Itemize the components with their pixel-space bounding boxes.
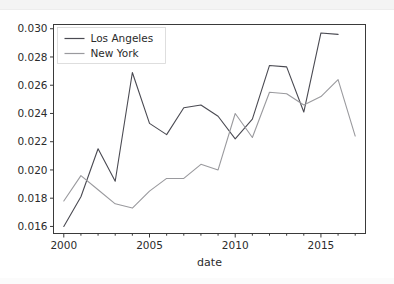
x-tick-label: 2015 (308, 239, 335, 251)
x-tick-label: 2005 (136, 239, 163, 251)
y-tick-label: 0.020 (17, 164, 47, 176)
x-axis-label: date (197, 256, 222, 269)
y-tick-label: 0.028 (17, 51, 47, 63)
series-line-new-york (64, 80, 355, 209)
y-tick-label: 0.026 (17, 79, 47, 91)
x-tick-group: 2000200520102015 (50, 234, 355, 251)
y-tick-label: 0.024 (17, 107, 47, 119)
y-tick-group: 0.0160.0180.0200.0220.0240.0260.0280.030 (17, 22, 53, 232)
y-tick-label: 0.016 (17, 220, 47, 232)
y-tick-label: 0.018 (17, 192, 47, 204)
x-tick-label: 2010 (222, 239, 249, 251)
legend-label-los-angeles: Los Angeles (91, 32, 154, 44)
line-chart-canvas: 0.0160.0180.0200.0220.0240.0260.0280.030… (0, 0, 394, 284)
chart-legend: Los AngelesNew York (58, 28, 166, 64)
y-tick-label: 0.030 (17, 22, 47, 34)
legend-label-new-york: New York (91, 47, 140, 59)
x-tick-label: 2000 (50, 239, 77, 251)
y-tick-label: 0.022 (17, 135, 47, 147)
chart-figure: 0.0160.0180.0200.0220.0240.0260.0280.030… (0, 0, 394, 284)
